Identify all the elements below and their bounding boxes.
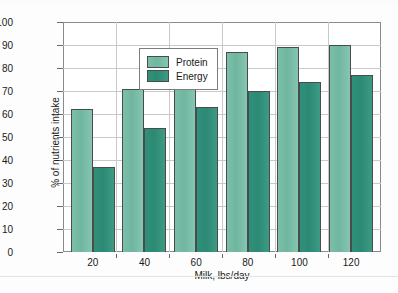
x-tick-label-40: 40 <box>121 254 167 270</box>
x-tick-mark-1 <box>116 254 117 258</box>
caption-divider <box>0 276 398 277</box>
bar-groups <box>63 22 381 252</box>
y-tick-label-20: 20 <box>0 201 13 212</box>
y-tick-label-60: 60 <box>0 109 13 120</box>
y-tick-label-50: 50 <box>0 132 13 143</box>
x-tick-label-60: 60 <box>173 254 219 270</box>
bar-energy-60 <box>196 107 218 252</box>
legend-item-energy: Energy <box>147 70 208 82</box>
figure-canvas: 0102030405060708090100 % of nutrients in… <box>0 0 398 293</box>
x-axis-ticks: 20406080100120 <box>63 254 381 270</box>
x-tick-label-120: 120 <box>328 254 374 270</box>
legend-label-protein: Protein <box>176 57 208 68</box>
x-tick-mark-2 <box>169 254 170 258</box>
legend-swatch-energy <box>147 70 169 82</box>
y-tick-label-40: 40 <box>0 155 13 166</box>
y-tick-label-0: 0 <box>0 247 13 258</box>
bar-energy-80 <box>248 91 270 252</box>
x-tick-mark-4 <box>275 254 276 258</box>
bar-energy-100 <box>299 82 321 252</box>
bar-group <box>329 22 373 252</box>
x-tick-mark-3 <box>222 254 223 258</box>
legend-swatch-protein <box>147 56 169 68</box>
bar-protein-20 <box>71 109 93 252</box>
y-tick-label-30: 30 <box>0 178 13 189</box>
plot-area: Protein Energy <box>63 22 381 252</box>
x-tick-label-80: 80 <box>225 254 271 270</box>
y-axis-label: % of nutrients intake <box>50 78 61 208</box>
bar-protein-80 <box>226 52 248 252</box>
chart-legend: Protein Energy <box>139 48 218 90</box>
x-tick-mark-5 <box>328 254 329 258</box>
bar-energy-40 <box>144 128 166 252</box>
y-tick-label-10: 10 <box>0 224 13 235</box>
y-tick-label-70: 70 <box>0 86 13 97</box>
legend-item-protein: Protein <box>147 56 208 68</box>
bar-protein-120 <box>329 45 351 252</box>
bar-protein-40 <box>122 89 144 252</box>
x-tick-label-100: 100 <box>276 254 322 270</box>
bar-group <box>277 22 321 252</box>
bar-group <box>226 22 270 252</box>
bar-protein-100 <box>277 47 299 252</box>
y-tick-label-90: 90 <box>0 40 13 51</box>
bar-energy-20 <box>93 167 115 252</box>
y-tick-label-100: 100 <box>0 17 13 28</box>
bar-energy-120 <box>351 75 373 252</box>
y-tick-mark-0 <box>57 252 63 253</box>
bar-group <box>71 22 115 252</box>
y-tick-label-80: 80 <box>0 63 13 74</box>
x-tick-label-20: 20 <box>70 254 116 270</box>
legend-label-energy: Energy <box>176 71 208 82</box>
